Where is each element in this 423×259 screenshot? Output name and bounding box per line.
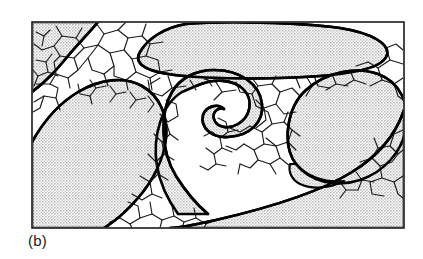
micrograph-diagram [0,0,423,259]
figure-container: (b) [0,0,423,259]
figure-caption: (b) [28,232,47,250]
micrograph-content [32,22,407,228]
